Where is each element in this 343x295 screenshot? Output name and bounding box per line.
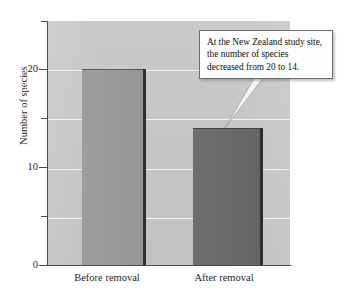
bar-before-edge	[143, 69, 146, 265]
y-tick-10	[39, 167, 47, 168]
callout-annotation: At the New Zealand study site, the numbe…	[199, 30, 333, 79]
bar-after-removal[interactable]	[193, 128, 263, 265]
x-axis-line	[47, 265, 291, 266]
x-tick-label-after: After removal	[168, 272, 280, 283]
y-axis-title: Number of species	[18, 41, 29, 171]
y-tick-20	[39, 69, 47, 70]
bar-chart-figure: 0 10 20 Number of species Before removal…	[0, 0, 343, 295]
bar-before-face	[82, 69, 146, 265]
bar-after-edge	[260, 128, 263, 265]
y-tick-label-0: 0	[0, 260, 38, 271]
y-tick-15	[41, 118, 47, 119]
bar-before-removal[interactable]	[82, 69, 146, 265]
bar-after-face	[193, 128, 263, 265]
x-tick-label-before: Before removal	[50, 272, 164, 283]
y-tick-0	[39, 265, 47, 266]
y-axis-line	[47, 21, 48, 266]
y-tick-5	[41, 216, 47, 217]
y-tick-25	[41, 21, 47, 22]
